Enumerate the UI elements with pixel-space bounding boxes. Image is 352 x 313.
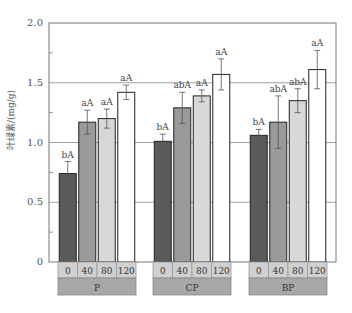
y-tick-label: 2.0: [27, 17, 43, 28]
x-tick-label: 120: [213, 266, 230, 276]
y-axis-label: 叶绿素/(mg/g): [5, 90, 16, 150]
group-label: BP: [282, 283, 295, 293]
y-tick-label: 1.0: [27, 137, 43, 148]
y-tick-label: 0: [37, 256, 43, 267]
bar: [79, 122, 96, 262]
x-tick-label: 120: [118, 266, 135, 276]
significance-label: aA: [196, 78, 208, 88]
bar: [98, 119, 115, 262]
bar: [118, 92, 135, 262]
x-tick-label: 120: [309, 266, 326, 276]
x-tick-label: 80: [101, 266, 113, 276]
bar: [213, 74, 230, 262]
bar: [174, 108, 191, 262]
bar: [154, 141, 171, 262]
x-tick-label: 40: [177, 266, 189, 276]
bar-group-cp: bA0abA40aA80aA120CP: [153, 47, 231, 295]
significance-label: abA: [173, 80, 191, 90]
x-tick-label: 40: [82, 266, 94, 276]
significance-label: abA: [269, 84, 287, 94]
bar: [193, 96, 210, 262]
x-tick-label: 0: [65, 266, 71, 276]
significance-label: aA: [215, 47, 227, 57]
bar: [59, 174, 76, 262]
y-tick-label: 0.5: [27, 196, 43, 207]
bar-group-p: bA0aA40aA80aA120P: [58, 73, 136, 295]
significance-label: aA: [311, 38, 323, 48]
bar: [250, 135, 267, 262]
significance-label: bA: [62, 150, 75, 160]
significance-label: aA: [101, 97, 113, 107]
significance-label: bA: [253, 117, 266, 127]
y-tick-label: 1.5: [27, 77, 43, 88]
bar: [289, 101, 306, 262]
bar-chart: 00.51.01.52.0叶绿素/(mg/g)bA0aA40aA80aA120P…: [0, 0, 352, 313]
x-tick-label: 0: [160, 266, 166, 276]
x-tick-label: 40: [273, 266, 285, 276]
x-tick-label: 0: [256, 266, 262, 276]
significance-label: aA: [120, 73, 132, 83]
bar: [309, 70, 326, 262]
significance-label: bA: [157, 122, 170, 132]
x-tick-label: 80: [292, 266, 304, 276]
significance-label: abA: [289, 77, 307, 87]
group-label: P: [94, 283, 100, 293]
bar-group-bp: bA0abA40abA80aA120BP: [249, 38, 327, 295]
significance-label: aA: [81, 98, 93, 108]
x-tick-label: 80: [196, 266, 208, 276]
group-label: CP: [186, 283, 199, 293]
